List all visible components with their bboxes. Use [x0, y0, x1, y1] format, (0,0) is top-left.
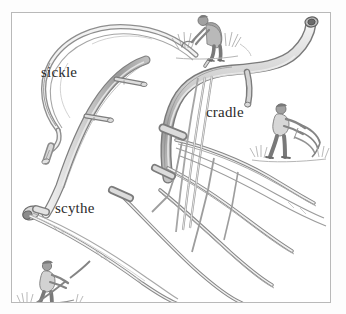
illustration-plate: sickle cradle scythe: [0, 0, 346, 314]
label-scythe: scythe: [55, 200, 95, 217]
illustration-artwork: [0, 0, 346, 314]
vignette-mower-with-scythe: [17, 260, 90, 307]
label-sickle: sickle: [41, 64, 77, 81]
cradle-collar: [112, 128, 183, 198]
label-cradle: cradle: [206, 104, 244, 121]
sickle-handle: [41, 146, 51, 165]
cradle-snath-end: [304, 16, 318, 28]
cradle-nib: [245, 72, 251, 107]
vignette-cradler-at-work: [250, 103, 329, 161]
vignette-reaper-with-sickle: [172, 15, 251, 61]
tool-sickle: [41, 27, 196, 165]
cradle-upper-peg: [205, 60, 209, 66]
